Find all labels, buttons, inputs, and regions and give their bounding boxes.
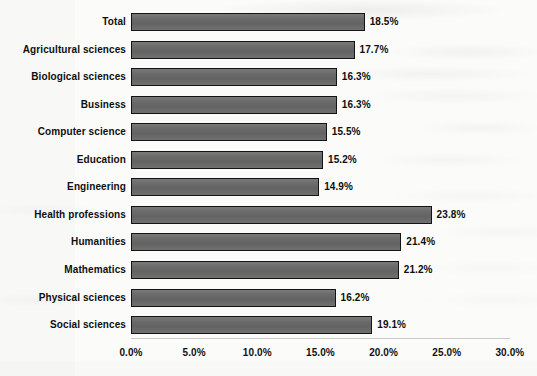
bar [131, 96, 337, 114]
bar [131, 261, 399, 279]
bar [131, 233, 401, 251]
bar-value-label: 15.5% [332, 123, 361, 141]
bar [131, 41, 355, 59]
bar-value-label: 17.7% [360, 41, 389, 59]
category-label: Total [0, 13, 126, 31]
x-tick-label: 25.0% [432, 347, 461, 358]
category-label: Mathematics [0, 261, 126, 279]
bar-value-label: 21.4% [406, 233, 435, 251]
bar [131, 123, 327, 141]
bar [131, 13, 365, 31]
category-label: Engineering [0, 178, 126, 196]
bar-row: Education15.2% [0, 151, 537, 169]
bar-row: Physical sciences16.2% [0, 289, 537, 307]
bar-value-label: 15.2% [328, 151, 357, 169]
category-label: Physical sciences [0, 289, 126, 307]
bar-value-label: 16.3% [342, 96, 371, 114]
bar-row: Business16.3% [0, 96, 537, 114]
category-label: Social sciences [0, 316, 126, 334]
bar-row: Social sciences19.1% [0, 316, 537, 334]
category-label: Computer science [0, 123, 126, 141]
bar-row: Health professions23.8% [0, 206, 537, 224]
x-tick-label: 10.0% [243, 347, 272, 358]
category-label: Education [0, 151, 126, 169]
bar-row: Computer science15.5% [0, 123, 537, 141]
bar-chart: Total18.5%Agricultural sciences17.7%Biol… [0, 0, 537, 376]
category-label: Biological sciences [0, 68, 126, 86]
bar-row: Agricultural sciences17.7% [0, 41, 537, 59]
category-label: Humanities [0, 233, 126, 251]
bar [131, 151, 323, 169]
bar [131, 68, 337, 86]
bar-row: Engineering14.9% [0, 178, 537, 196]
x-tick-label: 0.0% [119, 347, 142, 358]
bar-value-label: 19.1% [377, 316, 406, 334]
x-tick-label: 15.0% [306, 347, 335, 358]
bar-row: Biological sciences16.3% [0, 68, 537, 86]
plot-area: Total18.5%Agricultural sciences17.7%Biol… [0, 0, 537, 376]
bar-value-label: 21.2% [404, 261, 433, 279]
x-tick-label: 30.0% [495, 347, 524, 358]
category-label: Agricultural sciences [0, 41, 126, 59]
bar-row: Total18.5% [0, 13, 537, 31]
bar [131, 206, 432, 224]
bar-value-label: 14.9% [324, 178, 353, 196]
x-axis-line [131, 338, 510, 339]
bar [131, 289, 336, 307]
bar [131, 178, 319, 196]
bar-value-label: 16.2% [341, 289, 370, 307]
bar-value-label: 18.5% [370, 13, 399, 31]
bar-value-label: 23.8% [437, 206, 466, 224]
category-label: Health professions [0, 206, 126, 224]
bar-row: Mathematics21.2% [0, 261, 537, 279]
x-tick-label: 20.0% [369, 347, 398, 358]
x-tick-label: 5.0% [183, 347, 206, 358]
bar-row: Humanities21.4% [0, 233, 537, 251]
bar [131, 316, 372, 334]
bar-value-label: 16.3% [342, 68, 371, 86]
category-label: Business [0, 96, 126, 114]
